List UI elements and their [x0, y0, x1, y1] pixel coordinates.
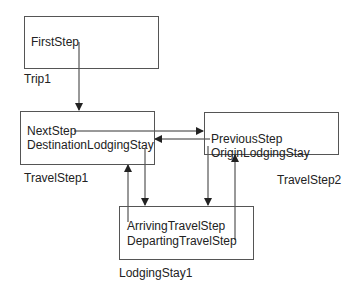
field-originlodgingstay: OriginLodgingStay [211, 146, 310, 160]
field-departingtravelstep: DepartingTravelStep [127, 234, 237, 248]
node-label-travelstep1: TravelStep1 [24, 171, 88, 185]
node-label-travelstep2: TravelStep2 [277, 173, 341, 187]
field-arrivingtravelstep: ArrivingTravelStep [127, 219, 225, 233]
diagram-canvas: FirstStep Trip1 NextStep DestinationLodg… [0, 0, 357, 293]
node-lodgingstay1[interactable] [119, 206, 254, 260]
field-nextstep: NextStep [27, 124, 76, 138]
field-previousstep: PreviousStep [211, 132, 282, 146]
field-destinationlodgingstay: DestinationLodgingStay [27, 138, 154, 152]
node-label-trip1: Trip1 [24, 72, 51, 86]
node-label-lodgingstay1: LodgingStay1 [119, 266, 192, 280]
field-firststep: FirstStep [31, 35, 79, 49]
